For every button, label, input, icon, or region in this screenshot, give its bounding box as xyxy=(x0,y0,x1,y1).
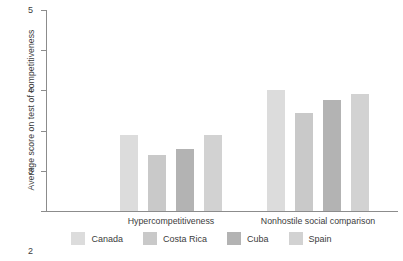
chart-legend: CanadaCosta RicaCubaSpain xyxy=(0,232,403,245)
y-tick-label-4: 4 xyxy=(28,86,33,95)
group-label-1: Nonhostile social comparison xyxy=(261,216,375,226)
bar-spain-nonhostile-social-comparison xyxy=(351,94,369,211)
y-tick-mark-0: 0 xyxy=(41,211,46,212)
bar-canada-hypercompetitiveness xyxy=(120,135,138,211)
bar-costa-rica-nonhostile-social-comparison xyxy=(295,113,313,211)
bar-spain-hypercompetitiveness xyxy=(204,135,222,211)
bar-chart: Average score on test of competitiveness… xyxy=(0,0,403,261)
bar-cuba-nonhostile-social-comparison xyxy=(323,100,341,211)
group-label-0: Hypercompetitiveness xyxy=(128,216,215,226)
y-axis-title: Average score on test of competitiveness xyxy=(26,5,36,215)
y-axis-line xyxy=(46,10,47,212)
bar-costa-rica-hypercompetitiveness xyxy=(148,155,166,211)
y-tick-mark-5: 5 xyxy=(41,10,46,11)
legend-swatch-icon xyxy=(143,232,157,245)
bar-cuba-hypercompetitiveness xyxy=(176,149,194,211)
legend-label: Cuba xyxy=(247,234,269,244)
legend-label: Canada xyxy=(91,234,123,244)
y-tick-mark-4: 4 xyxy=(41,50,46,51)
plot-area: 012345 HypercompetitivenessNonhostile so… xyxy=(46,10,398,211)
legend-swatch-icon xyxy=(227,232,241,245)
legend-label: Spain xyxy=(309,234,332,244)
legend-label: Costa Rica xyxy=(163,234,207,244)
x-axis-line xyxy=(46,211,398,212)
legend-item-canada[interactable]: Canada xyxy=(71,232,123,245)
y-tick-mark-2: 2 xyxy=(41,131,46,132)
y-tick-mark-3: 3 xyxy=(41,90,46,91)
legend-item-spain[interactable]: Spain xyxy=(289,232,332,245)
legend-item-cuba[interactable]: Cuba xyxy=(227,232,269,245)
legend-swatch-icon xyxy=(71,232,85,245)
y-tick-label-2: 2 xyxy=(28,247,33,256)
y-tick-label-5: 5 xyxy=(28,6,33,15)
legend-swatch-icon xyxy=(289,232,303,245)
y-tick-label-3: 3 xyxy=(28,166,33,175)
legend-item-costa-rica[interactable]: Costa Rica xyxy=(143,232,207,245)
y-tick-mark-1: 1 xyxy=(41,171,46,172)
bar-canada-nonhostile-social-comparison xyxy=(267,90,285,211)
